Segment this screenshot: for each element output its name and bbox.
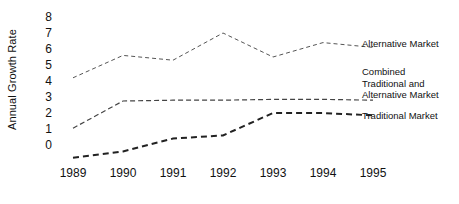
series-label-combined: Combined Traditional and Alternative Mar…	[362, 66, 439, 101]
plot-area	[0, 0, 459, 204]
series-line-traditional-market	[73, 113, 373, 158]
series-label-traditional-market: Traditional Market	[362, 110, 438, 122]
series-line-alternative-market	[73, 33, 373, 78]
growth-rate-line-chart: Annual Growth Rate 8 7 6 5 4 3 2 1 0 198…	[0, 0, 459, 204]
series-label-alternative-market: Alternative Market	[362, 38, 439, 50]
